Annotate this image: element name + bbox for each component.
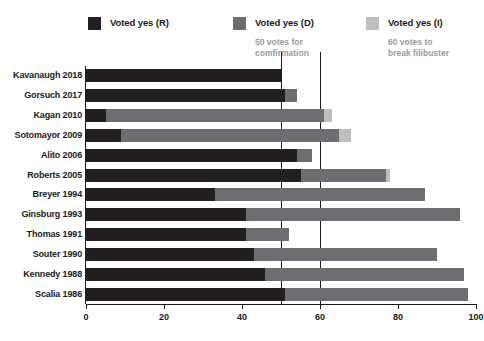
bar-row [86,169,390,182]
annotation-60-votes-line2: break filibuster [388,48,449,59]
x-axis-tick [242,304,243,309]
bar-row [86,248,437,261]
bar-row [86,149,312,162]
bar-segment [86,129,121,142]
bar-segment [254,248,437,261]
x-axis-tick [320,304,321,309]
x-axis-tick-label: 80 [393,312,403,322]
annotation-50-votes-line1: 50 votes for [255,37,314,48]
legend-label-r: Voted yes (R) [110,18,169,28]
y-axis-label: Sotomayor 2009 [2,129,82,142]
bar-segment [246,228,289,241]
y-axis-label: Roberts 2005 [2,169,82,182]
legend-swatch-i-icon [366,17,379,30]
bar-segment [86,228,246,241]
bar-segment [324,109,332,122]
y-axis-label: Gorsuch 2017 [2,89,82,102]
x-axis-tick [398,304,399,309]
bar-segment [86,109,106,122]
bar-segment [297,149,313,162]
bar-segment [86,288,285,301]
y-axis-label: Breyer 1994 [2,188,82,201]
bar-segment [246,208,461,221]
chart-legend: Voted yes (R) Voted yes (D) 50 votes for… [88,16,478,62]
legend-label-i: Voted yes (I) [388,18,442,28]
bar-segment [86,169,301,182]
bar-segment [86,149,297,162]
y-axis-label: Kagan 2010 [2,109,82,122]
x-axis-tick-label: 40 [237,312,247,322]
y-axis-label: Souter 1990 [2,248,82,261]
annotation-50-votes-line2: comfirmation [255,48,314,59]
bar-row [86,208,460,221]
legend-item-voted-yes-d: Voted yes (D) 50 votes for comfirmation [233,16,314,58]
bar-row [86,288,468,301]
legend-label-d: Voted yes (D) [255,18,314,28]
annotation-50-votes: 50 votes for comfirmation [255,37,314,58]
bar-segment [265,268,464,281]
bar-row [86,188,425,201]
bar-segment [339,129,351,142]
annotation-60-votes: 60 votes to break filibuster [388,37,449,58]
y-axis-label: Kavanaugh 2018 [2,69,82,82]
y-axis-label: Scalia 1986 [2,288,82,301]
bar-row [86,89,297,102]
bar-segment [285,89,297,102]
legend-item-voted-yes-r: Voted yes (R) [88,16,169,30]
y-axis-labels: Kavanaugh 2018Gorsuch 2017Kagan 2010Soto… [0,66,82,304]
legend-swatch-r-icon [88,17,101,30]
y-axis-label: Thomas 1991 [2,228,82,241]
legend-item-voted-yes-i: Voted yes (I) 60 votes to break filibust… [366,16,449,58]
bar-row [86,109,332,122]
legend-swatch-d-icon [233,17,246,30]
bar-segment [106,109,324,122]
bar-segment [86,188,215,201]
bar-segment [215,188,426,201]
y-axis-label: Alito 2006 [2,149,82,162]
x-axis-tick-label: 20 [159,312,169,322]
x-axis: 020406080100 [86,304,478,334]
x-axis-tick [476,304,477,309]
x-axis-line [86,304,476,305]
annotation-60-votes-line1: 60 votes to [388,37,449,48]
bar-segment [121,129,339,142]
bar-segment [285,288,468,301]
plot-area [86,66,476,304]
bar-row [86,69,281,82]
bar-segment [86,248,254,261]
bar-row [86,228,289,241]
y-axis-label: Ginsburg 1993 [2,208,82,221]
x-axis-tick-label: 60 [315,312,325,322]
x-axis-tick [86,304,87,309]
bar-segment [86,268,265,281]
bar-segment [86,208,246,221]
x-axis-tick-label: 100 [468,312,483,322]
y-axis-label: Kennedy 1988 [2,268,82,281]
x-axis-tick [164,304,165,309]
bar-segment [86,69,281,82]
bar-row [86,268,464,281]
bar-segment [301,169,387,182]
bar-segment [86,89,285,102]
bar-segment [386,169,390,182]
x-axis-tick-label: 0 [83,312,88,322]
bar-row [86,129,351,142]
